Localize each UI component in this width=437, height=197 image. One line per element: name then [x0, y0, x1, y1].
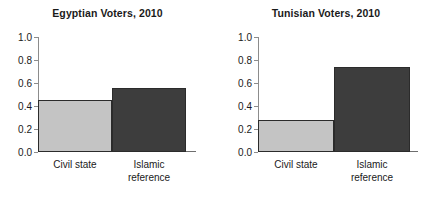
bar [258, 120, 334, 152]
chart-panel-egyptian-voters: Egyptian Voters, 2010 1.0 0.8 0.6 0.4 0.… [0, 0, 215, 197]
category-label-line: Islamic [112, 158, 186, 171]
y-axis-tick-label: 0.8 [238, 55, 252, 66]
x-axis-category-labels: Civil state Islamic reference [38, 158, 186, 184]
y-axis-tick-label: 0.4 [238, 101, 252, 112]
y-axis-tick-label: 0.0 [18, 147, 32, 158]
x-axis-category-label: Civil state [258, 158, 334, 184]
bar [38, 100, 112, 152]
y-axis-tick-label: 0.8 [18, 55, 32, 66]
y-axis-tick-label: 1.0 [238, 32, 252, 43]
category-label-line: Civil state [258, 158, 334, 171]
category-label-line: Civil state [38, 158, 112, 171]
y-axis-tick-label: 0.0 [238, 147, 252, 158]
chart-title: Tunisian Voters, 2010 [215, 7, 437, 19]
chart-panel-tunisian-voters: Tunisian Voters, 2010 1.0 0.8 0.6 0.4 0.… [215, 0, 437, 197]
category-label-line: reference [112, 171, 186, 184]
x-axis-category-labels: Civil state Islamic reference [258, 158, 410, 184]
y-axis-tick-label: 0.4 [18, 101, 32, 112]
bar [334, 67, 410, 152]
y-axis-tick [254, 60, 258, 61]
y-axis-tick [34, 37, 38, 38]
bar-chart-figure: Egyptian Voters, 2010 1.0 0.8 0.6 0.4 0.… [0, 0, 437, 197]
y-axis-tick [34, 60, 38, 61]
x-axis-category-label: Islamic reference [112, 158, 186, 184]
y-axis-tick-label: 1.0 [18, 32, 32, 43]
category-label-line: Islamic [334, 158, 410, 171]
y-axis-tick [254, 152, 258, 153]
y-axis-tick-label: 0.6 [238, 78, 252, 89]
y-axis-tick [254, 106, 258, 107]
y-axis-tick [254, 83, 258, 84]
y-axis-tick-label: 0.2 [238, 124, 252, 135]
y-axis-tick [34, 83, 38, 84]
bar [112, 88, 186, 152]
y-axis-tick-label: 0.2 [18, 124, 32, 135]
y-axis-tick-label: 0.6 [18, 78, 32, 89]
plot-area: 1.0 0.8 0.6 0.4 0.2 0.0 [258, 37, 410, 152]
x-axis-category-label: Islamic reference [334, 158, 410, 184]
x-axis-category-label: Civil state [38, 158, 112, 184]
category-label-line: reference [334, 171, 410, 184]
plot-area: 1.0 0.8 0.6 0.4 0.2 0.0 [38, 37, 186, 152]
chart-title: Egyptian Voters, 2010 [0, 7, 215, 19]
y-axis-tick [34, 152, 38, 153]
y-axis-tick [254, 37, 258, 38]
